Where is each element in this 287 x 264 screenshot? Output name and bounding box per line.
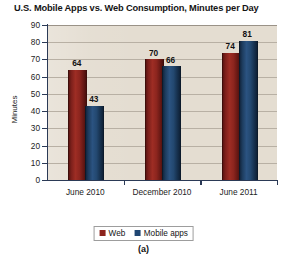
y-axis-tick-label: 10 — [2, 158, 40, 168]
x-axis-category-label: December 2010 — [124, 187, 201, 197]
y-axis-tick-label: 30 — [2, 123, 40, 133]
bar-value-label: 66 — [159, 55, 183, 65]
y-axis-tick-label: 50 — [2, 89, 40, 99]
bar-web-2[interactable]: 74 — [222, 25, 239, 180]
y-axis-line — [47, 24, 48, 181]
bar-mobile-1[interactable]: 66 — [162, 25, 179, 180]
x-axis-tick — [277, 180, 278, 185]
legend-label-mobile-apps: Mobile apps — [144, 229, 188, 238]
legend-swatch-mobile-apps-icon — [134, 230, 140, 236]
bar-rect — [85, 106, 104, 180]
bar-mobile-0[interactable]: 43 — [85, 25, 102, 180]
legend-swatch-web-icon — [99, 230, 105, 236]
bar-value-label: 81 — [235, 29, 259, 39]
legend-item-web[interactable]: Web — [99, 229, 125, 238]
legend-label-web: Web — [109, 229, 126, 238]
y-axis-tick-label: 80 — [2, 37, 40, 47]
chart-legend: Web Mobile apps — [93, 226, 194, 241]
chart-title: U.S. Mobile Apps vs. Web Consumption, Mi… — [14, 3, 282, 13]
bar-web-1[interactable]: 70 — [145, 25, 162, 180]
y-axis-labels: 0102030405060708090 — [0, 0, 40, 264]
x-axis-tick — [124, 180, 125, 185]
bar-value-label: 43 — [82, 94, 106, 104]
y-axis-tick-label: 70 — [2, 54, 40, 64]
x-axis-line — [47, 180, 278, 181]
x-axis-tick — [200, 180, 201, 185]
y-axis-tick-label: 90 — [2, 20, 40, 30]
figure-caption: (a) — [0, 244, 287, 254]
x-axis-category-label: June 2011 — [200, 187, 277, 197]
bar-mobile-2[interactable]: 81 — [239, 25, 256, 180]
x-axis-category-label: June 2010 — [47, 187, 124, 197]
y-axis-tick-label: 40 — [2, 106, 40, 116]
bar-rect — [239, 41, 258, 181]
y-axis-tick-label: 0 — [2, 175, 40, 185]
y-axis-tick-label: 60 — [2, 72, 40, 82]
bar-rect — [162, 66, 181, 180]
y-axis-tick-label: 20 — [2, 141, 40, 151]
legend-item-mobile-apps[interactable]: Mobile apps — [134, 229, 188, 238]
